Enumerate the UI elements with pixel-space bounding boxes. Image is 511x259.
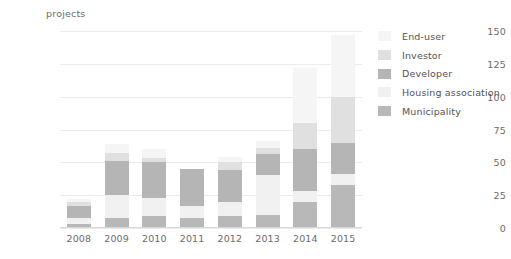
bar-segment-investor[interactable]	[67, 202, 91, 206]
legend-item-label: Investor	[402, 50, 442, 61]
x-axis-tick-label: 2009	[104, 233, 129, 244]
legend-item-investor[interactable]: Investor	[378, 46, 508, 65]
legend-item-end-user[interactable]: End-user	[378, 27, 508, 46]
bar-segment-investor[interactable]	[331, 97, 355, 143]
bar-2013[interactable]	[256, 31, 280, 228]
bar-segment-housing-association[interactable]	[180, 206, 204, 218]
y-axis-tick-label: 50	[466, 157, 506, 168]
bar-segment-end-user[interactable]	[105, 144, 129, 153]
bar-segment-housing-association[interactable]	[105, 195, 129, 217]
bar-segment-developer[interactable]	[331, 143, 355, 175]
bar-segment-developer[interactable]	[180, 169, 204, 206]
bar-segment-housing-association[interactable]	[218, 202, 242, 216]
legend: End-userInvestorDeveloperHousing associa…	[378, 27, 508, 120]
x-axis-tick-label: 2014	[293, 233, 318, 244]
bar-segment-housing-association[interactable]	[256, 175, 280, 214]
x-axis-tick-label: 2011	[180, 233, 205, 244]
bar-segment-end-user[interactable]	[293, 68, 317, 123]
bar-segment-investor[interactable]	[293, 123, 317, 149]
bar-2011[interactable]	[180, 31, 204, 228]
legend-swatch-icon	[378, 31, 391, 41]
bar-segment-end-user[interactable]	[331, 35, 355, 97]
y-axis-tick-label: 25	[466, 190, 506, 201]
bar-2015[interactable]	[331, 31, 355, 228]
x-axis-tick-label: 2013	[255, 233, 280, 244]
gridline	[60, 228, 362, 229]
legend-item-municipality[interactable]: Municipality	[378, 102, 508, 121]
bar-segment-developer[interactable]	[218, 170, 242, 202]
y-axis-tick-label: 0	[466, 223, 506, 234]
x-axis-tick-label: 2012	[217, 233, 242, 244]
plot-area	[60, 31, 362, 228]
bar-segment-municipality[interactable]	[331, 185, 355, 228]
legend-swatch-icon	[378, 106, 391, 116]
bar-segment-developer[interactable]	[293, 149, 317, 191]
bar-segment-developer[interactable]	[256, 154, 280, 175]
bar-segment-end-user[interactable]	[142, 149, 166, 158]
bar-segment-investor[interactable]	[105, 153, 129, 161]
x-axis-tick-label: 2015	[331, 233, 356, 244]
x-axis-tick-label: 2008	[66, 233, 91, 244]
bar-segment-municipality[interactable]	[293, 202, 317, 228]
bar-2014[interactable]	[293, 31, 317, 228]
legend-swatch-icon	[378, 87, 391, 97]
legend-item-label: Municipality	[402, 106, 461, 117]
x-axis-tick-label: 2010	[142, 233, 167, 244]
legend-swatch-icon	[378, 69, 391, 79]
bar-2008[interactable]	[67, 31, 91, 228]
x-axis-line	[60, 227, 362, 228]
bar-segment-investor[interactable]	[142, 158, 166, 162]
bar-segment-developer[interactable]	[105, 161, 129, 195]
bar-segment-housing-association[interactable]	[293, 191, 317, 202]
legend-item-developer[interactable]: Developer	[378, 64, 508, 83]
legend-item-label: End-user	[402, 31, 445, 42]
bar-segment-housing-association[interactable]	[142, 198, 166, 216]
bar-segment-housing-association[interactable]	[331, 174, 355, 185]
legend-swatch-icon	[378, 50, 391, 60]
bar-segment-investor[interactable]	[256, 148, 280, 155]
bar-segment-developer[interactable]	[142, 162, 166, 197]
bar-segment-end-user[interactable]	[256, 141, 280, 148]
bar-segment-end-user[interactable]	[218, 157, 242, 162]
legend-item-label: Housing association	[402, 87, 500, 98]
legend-item-housing-association[interactable]: Housing association	[378, 83, 508, 102]
y-axis-title: projects	[46, 8, 86, 19]
stacked-bar-chart: projects 0255075100125150 20082009201020…	[0, 0, 511, 259]
bar-segment-investor[interactable]	[218, 162, 242, 170]
bar-segment-end-user[interactable]	[67, 199, 91, 202]
bar-2010[interactable]	[142, 31, 166, 228]
bar-2009[interactable]	[105, 31, 129, 228]
legend-item-label: Developer	[402, 68, 452, 79]
bar-segment-developer[interactable]	[67, 206, 91, 218]
y-axis-tick-label: 75	[466, 124, 506, 135]
bar-segment-housing-association[interactable]	[67, 218, 91, 225]
bar-2012[interactable]	[218, 31, 242, 228]
